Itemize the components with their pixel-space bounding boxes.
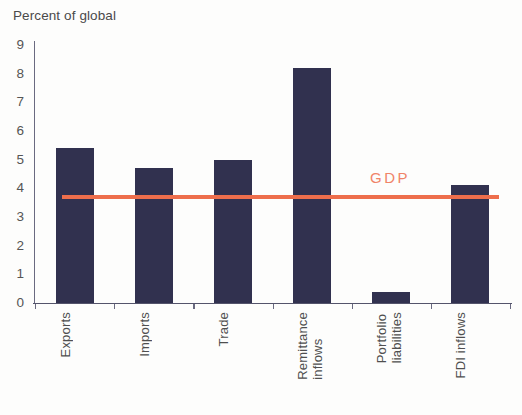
x-label-trade: Trade [216, 312, 250, 412]
x-label-imports: Imports [137, 312, 171, 412]
x-tick-4 [431, 304, 432, 309]
x-tick-1 [193, 304, 194, 309]
y-axis: 9876543210 [0, 40, 30, 306]
x-tick-5 [510, 304, 511, 309]
x-tick-2 [273, 304, 274, 309]
bar-remittance-inflows [293, 68, 331, 303]
y-tick-label-6: 6 [16, 124, 24, 138]
bar-portfolio-liabilities [372, 292, 410, 303]
x-tick-origin [35, 304, 36, 309]
bar-fdi-inflows [451, 185, 489, 303]
x-tick-3 [352, 304, 353, 309]
x-label-remittance-inflows: Remittance inflows [295, 312, 329, 412]
bar-imports [135, 168, 173, 303]
x-tick-0 [114, 304, 115, 309]
y-tick-label-1: 1 [16, 268, 24, 282]
x-label-fdi-inflows: FDI inflows [453, 312, 487, 412]
y-tick-label-2: 2 [16, 239, 24, 253]
x-label-exports: Exports [58, 312, 92, 412]
x-label-text: Imports [137, 312, 152, 357]
chart-container: Percent of global 9876543210 ExportsImpo… [0, 0, 522, 415]
x-label-text: Portfolio liabilities [374, 312, 404, 363]
bar-trade [214, 160, 252, 303]
y-tick-label-0: 0 [16, 296, 24, 310]
x-axis-category-labels: ExportsImportsTradeRemittance inflowsPor… [0, 310, 522, 415]
x-label-text: Exports [58, 312, 73, 357]
x-label-text: Remittance inflows [295, 312, 325, 380]
chart-title: Percent of global [13, 8, 116, 23]
y-tick-label-3: 3 [16, 210, 24, 224]
y-tick-label-9: 9 [16, 38, 24, 52]
x-label-text: FDI inflows [453, 312, 468, 379]
gdp-reference-line [62, 195, 499, 199]
bars-layer [35, 40, 510, 303]
x-label-portfolio-liabilities: Portfolio liabilities [374, 312, 408, 412]
x-label-text: Trade [216, 312, 231, 346]
y-tick-label-7: 7 [16, 96, 24, 110]
y-tick-label-8: 8 [16, 67, 24, 81]
y-tick-label-4: 4 [16, 182, 24, 196]
gdp-line-label: GDP [370, 169, 410, 186]
y-tick-label-5: 5 [16, 153, 24, 167]
bar-exports [56, 148, 94, 303]
